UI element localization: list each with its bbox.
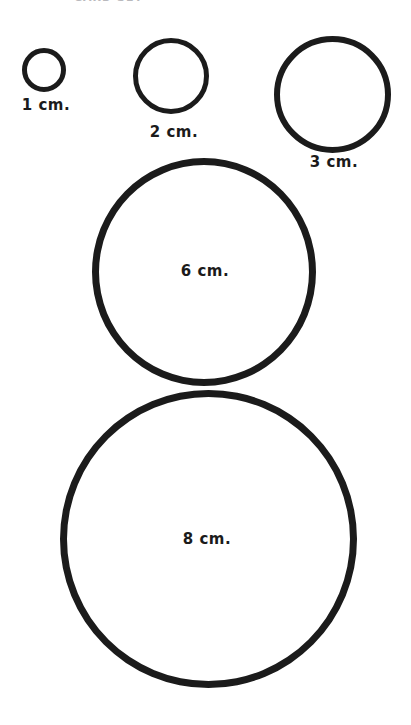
clipped-header-text: CARD SET: [74, 0, 234, 3]
circle-8cm-label: 8 cm.: [166, 530, 248, 548]
circle-2cm: [133, 38, 209, 114]
circle-1cm-label: 1 cm.: [14, 96, 78, 114]
circle-3cm: [274, 36, 391, 153]
circle-3cm-label: 3 cm.: [294, 153, 374, 171]
circle-6cm-label: 6 cm.: [164, 262, 246, 280]
circle-size-chart-sheet: CARD SET 1 cm. 2 cm. 3 cm. 6 cm. 8 cm.: [0, 0, 411, 725]
circle-2cm-label: 2 cm.: [134, 123, 214, 141]
circle-1cm: [22, 48, 66, 92]
